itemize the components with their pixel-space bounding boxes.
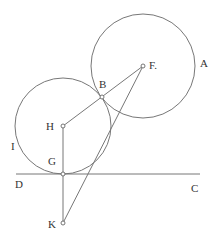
label-i: I <box>11 140 15 152</box>
geometry-diagram: A B C D F. G H I K <box>0 0 219 240</box>
label-a: A <box>200 57 208 69</box>
point-h <box>61 124 65 128</box>
label-d: D <box>15 178 23 190</box>
label-g: G <box>48 155 56 167</box>
label-k: K <box>48 218 56 230</box>
label-b: B <box>99 78 106 90</box>
point-g <box>61 172 65 176</box>
label-c: C <box>191 182 198 194</box>
label-h: H <box>46 120 54 132</box>
point-k <box>61 221 65 225</box>
label-f: F. <box>149 59 157 71</box>
point-f <box>141 64 145 68</box>
point-b <box>100 95 104 99</box>
